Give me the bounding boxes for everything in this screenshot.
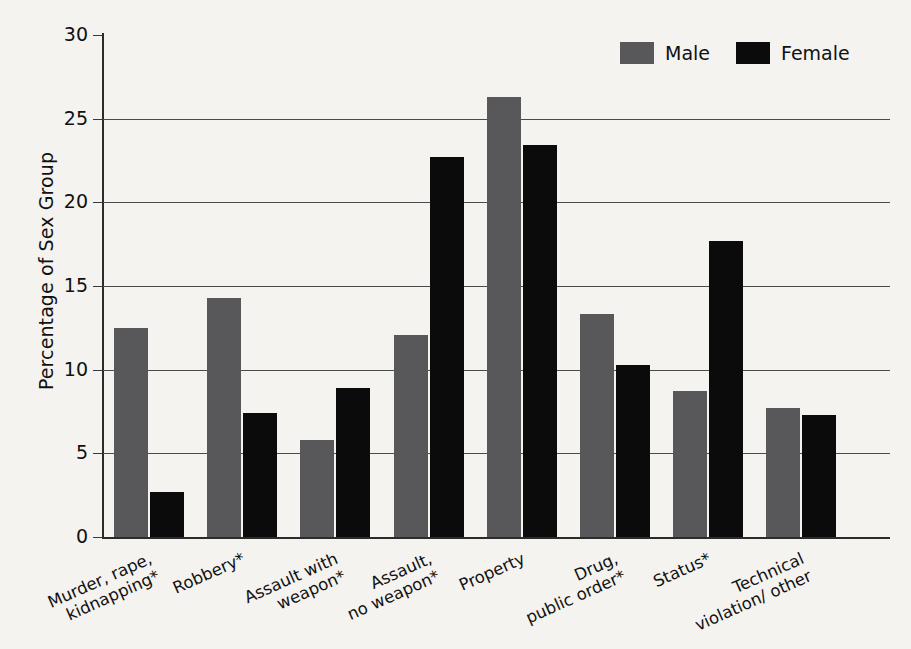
bar-chart: Percentage of Sex Group 051015202530 Mal… xyxy=(0,0,911,649)
bar-female-7 xyxy=(802,415,836,537)
gridline-0 xyxy=(103,537,890,539)
male-swatch-icon xyxy=(620,42,654,64)
y-tick-label-15: 15 xyxy=(42,276,88,295)
legend: MaleFemale xyxy=(620,42,850,64)
bar-male-2 xyxy=(300,440,334,537)
y-tick-label-5: 5 xyxy=(42,443,88,462)
y-tick-label-25: 25 xyxy=(42,109,88,128)
legend-entry-male[interactable]: Male xyxy=(620,42,710,64)
bar-male-5 xyxy=(580,314,614,537)
bar-male-4 xyxy=(487,97,521,537)
bar-female-0 xyxy=(150,492,184,537)
bar-male-7 xyxy=(766,408,800,537)
bar-male-6 xyxy=(673,391,707,537)
bar-female-5 xyxy=(616,365,650,537)
female-swatch-icon xyxy=(736,42,770,64)
bar-male-1 xyxy=(207,298,241,537)
y-tick-label-10: 10 xyxy=(42,360,88,379)
bar-female-4 xyxy=(523,145,557,537)
bar-female-3 xyxy=(430,157,464,537)
legend-entry-female[interactable]: Female xyxy=(736,42,850,64)
bar-male-3 xyxy=(394,335,428,537)
y-tick-label-20: 20 xyxy=(42,192,88,211)
plot-area xyxy=(103,35,890,537)
bar-male-0 xyxy=(114,328,148,537)
legend-label-male: Male xyxy=(665,42,710,64)
y-tick-label-0: 0 xyxy=(42,527,88,546)
y-tick-label-30: 30 xyxy=(42,25,88,44)
x-axis-label-7: Technical violation/ other xyxy=(617,549,816,649)
bar-female-2 xyxy=(336,388,370,537)
bar-female-6 xyxy=(709,241,743,537)
legend-label-female: Female xyxy=(781,42,850,64)
bar-female-1 xyxy=(243,413,277,537)
